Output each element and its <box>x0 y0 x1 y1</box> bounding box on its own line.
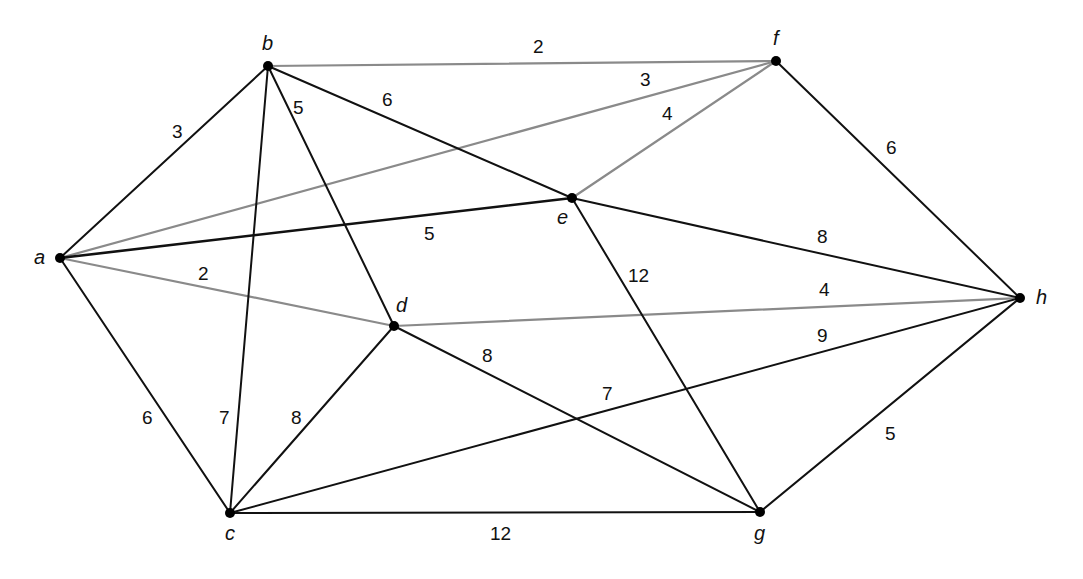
node-b <box>263 61 273 71</box>
edge-e-f <box>572 61 776 198</box>
edge-weight-c-g: 12 <box>490 523 511 544</box>
edge-f-h <box>776 61 1020 298</box>
edge-weight-b-d: 5 <box>293 97 304 118</box>
edge-b-f <box>268 61 776 66</box>
node-a <box>55 253 65 263</box>
edge-weight-g-h: 5 <box>885 423 896 444</box>
edge-c-d <box>230 326 394 513</box>
node-label-f: f <box>773 27 781 49</box>
edge-a-c <box>60 258 230 513</box>
edge-c-g <box>230 512 760 513</box>
edge-c-h <box>230 298 1020 513</box>
edge-a-e <box>60 198 572 258</box>
edge-weight-f-h: 6 <box>886 137 897 158</box>
edge-labels-layer: 3224435665781268891257 <box>142 36 897 544</box>
edge-weight-a-f: 3 <box>640 69 651 90</box>
edge-d-h <box>394 298 1020 326</box>
node-e <box>567 193 577 203</box>
node-label-d: d <box>396 294 408 316</box>
node-label-g: g <box>754 522 765 544</box>
edge-weight-e-h: 8 <box>817 226 828 247</box>
node-d <box>389 321 399 331</box>
edge-weight-a-c: 6 <box>142 407 153 428</box>
edge-weight-c-h: 9 <box>817 325 828 346</box>
node-h <box>1015 293 1025 303</box>
edge-weight-e-g: 12 <box>628 265 649 286</box>
edge-weight-d-g: 8 <box>482 345 493 366</box>
node-label-e: e <box>557 206 568 228</box>
edge-weight-d-h: 4 <box>819 279 830 300</box>
edge-weight-a-d: 2 <box>198 263 209 284</box>
graph-diagram: 3224435665781268891257 abcdefgh <box>0 0 1083 579</box>
edge-weight-c-d: 8 <box>291 407 302 428</box>
node-label-h: h <box>1036 286 1047 308</box>
extra-edge-label: 7 <box>602 383 613 404</box>
node-f <box>771 56 781 66</box>
node-g <box>755 507 765 517</box>
edge-b-c <box>230 66 268 513</box>
edge-weight-e-f: 4 <box>662 103 673 124</box>
node-labels-layer: abcdefgh <box>34 27 1047 544</box>
edge-weight-b-c: 7 <box>219 407 230 428</box>
node-c <box>225 508 235 518</box>
edge-weight-a-e: 5 <box>424 223 435 244</box>
edge-weight-a-b: 3 <box>172 121 183 142</box>
edges-layer <box>60 61 1020 513</box>
edge-weight-b-f: 2 <box>533 36 544 57</box>
node-label-c: c <box>225 522 235 544</box>
node-label-b: b <box>262 32 273 54</box>
edge-weight-b-e: 6 <box>382 89 393 110</box>
node-label-a: a <box>34 246 45 268</box>
edge-a-d <box>60 258 394 326</box>
edge-g-h <box>760 298 1020 512</box>
edge-b-e <box>268 66 572 198</box>
